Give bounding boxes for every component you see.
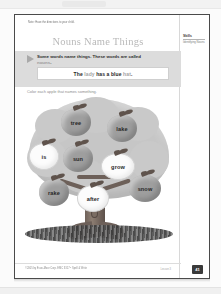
example-word-3: . — [131, 71, 133, 77]
teaching-text-after: . — [50, 60, 51, 65]
apple-word: is — [42, 154, 47, 160]
apple-word: after — [87, 196, 100, 202]
page-number-badge: 41 — [192, 265, 203, 274]
arrow-bullet-icon — [27, 55, 34, 63]
page-title: Nouns Name Things — [15, 36, 181, 47]
apple-word: tree — [71, 120, 82, 126]
footer-copyright: ©2005 by Evan-Moor Corp. EMC 3317 • Spel… — [25, 267, 145, 271]
grass-ground — [25, 225, 173, 243]
example-word-1: The — [74, 71, 85, 77]
top-bar-chip — [62, 1, 106, 7]
example-noun-2: hat — [123, 71, 131, 77]
directions-text: Color each apple that names something. — [27, 89, 167, 94]
skills-sidebar: Skills Identifying Nouns — [179, 15, 209, 278]
apple-is[interactable]: is — [29, 143, 59, 170]
apple-word: rake — [48, 190, 60, 196]
apple-snow[interactable]: snow — [129, 175, 161, 202]
apple-tree[interactable]: tree — [61, 109, 91, 136]
apple-lake[interactable]: lake — [107, 115, 137, 142]
worksheet-page-viewer: Note: Have the directions to your child.… — [0, 0, 221, 294]
app-bottom-strip — [0, 287, 221, 294]
apple-word: sun — [73, 156, 83, 162]
footer-divider — [15, 263, 181, 264]
apple-sun[interactable]: sun — [63, 145, 93, 172]
sheet-drop-shadow — [14, 279, 210, 282]
apple-word: grow — [111, 164, 125, 170]
parent-note-line: Note: Have the directions to your child. — [28, 21, 148, 25]
example-sentence: The lady has a blue hat. — [74, 71, 133, 77]
example-noun-1: lady — [84, 71, 94, 77]
teaching-text-before: Some words name things. These words are … — [37, 54, 141, 59]
skills-title: Skills — [183, 34, 208, 38]
example-word-2: has a blue — [95, 71, 123, 77]
skills-body: Identifying Nouns — [183, 41, 208, 45]
worksheet-sheet: Note: Have the directions to your child.… — [14, 14, 210, 279]
app-top-bar — [0, 0, 221, 9]
teaching-highlight-word: nouns — [37, 60, 50, 65]
example-sentence-box: The lady has a blue hat. — [37, 67, 169, 80]
apple-word: lake — [116, 126, 127, 132]
teaching-text: Some words name things. These words are … — [37, 54, 155, 66]
apple-rake[interactable]: rake — [39, 179, 69, 206]
apple-word: snow — [138, 186, 153, 192]
apple-grow[interactable]: grow — [101, 153, 135, 180]
apple-after[interactable]: after — [77, 185, 109, 212]
footer-lesson-note: Lesson 3 — [160, 268, 171, 271]
apple-tree-illustration: tree lake is sun — [21, 97, 177, 247]
